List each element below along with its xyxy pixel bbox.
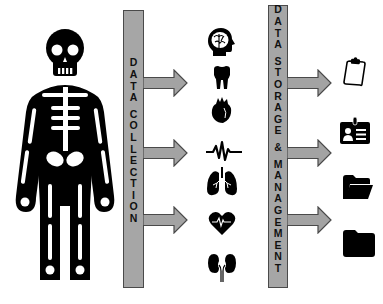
bar-letter: & [274,142,282,154]
bar-letter: A [130,92,138,104]
data-collection-label: D A T A C O L L E C T I O N [129,57,137,224]
id-badge-icon [340,117,370,144]
bar-letter: N [130,213,138,225]
bar-letter: A [274,16,282,28]
data-storage-label: D A T A S T O R A G E & M A N A G E M E … [274,4,283,274]
bar-letter: O [274,79,282,91]
heart-rate-icon [208,210,236,236]
bar-letter: A [274,39,282,51]
kidneys-icon [207,253,237,283]
brain-head-icon [207,27,239,57]
folder-icon [343,230,375,257]
bar-letter: E [274,125,281,137]
open-folder-icon [343,175,373,200]
ecg-wave-icon [206,140,242,162]
arrow-right-icon [287,69,332,97]
bar-letter: G [274,205,282,217]
lungs-icon [206,167,238,197]
skeleton-icon [6,26,120,286]
arrow-right-icon [143,206,188,234]
arrow-right-icon [287,139,332,167]
bar-letter: T [275,263,281,275]
bar-letter: A [130,69,138,81]
arrow-right-icon [287,206,332,234]
arrow-right-icon [143,139,188,167]
bar-letter: L [130,132,136,144]
clipboard-icon [343,57,367,87]
tooth-icon [213,66,231,90]
heart-icon [210,96,234,124]
data-storage-bar: D A T A S T O R A G E & M A N A G E M E … [268,5,288,288]
bar-letter: E [130,155,137,167]
bar-letter: M [274,228,283,240]
data-collection-bar: D A T A C O L L E C T I O N [123,10,144,288]
arrow-right-icon [143,69,188,97]
